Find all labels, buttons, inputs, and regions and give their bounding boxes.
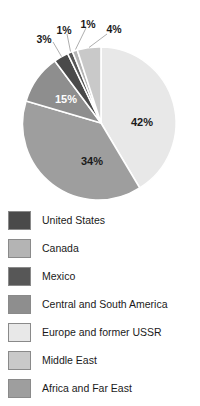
pie-chart-svg: 42% 34% 15% 3% 1% 1% 4% [0, 0, 200, 206]
legend-item-africa-and-far-east[interactable]: Africa and Far East [8, 374, 200, 402]
legend-label-africa-and-far-east: Africa and Far East [42, 383, 132, 394]
pie-value-label-15: 15% [55, 93, 77, 105]
legend-swatch-middle-east [8, 351, 31, 370]
leader-line-1a-percent [67, 34, 71, 52]
leader-line-4-percent [89, 34, 107, 48]
legend-swatch-central-and-south-america [8, 295, 31, 314]
legend-label-central-and-south-america: Central and South America [42, 299, 168, 310]
legend-item-middle-east[interactable]: Middle East [8, 346, 200, 374]
legend-label-mexico: Mexico [42, 271, 75, 282]
pie-value-label-3: 3% [36, 33, 52, 45]
leader-line-3-percent [53, 42, 62, 57]
legend-item-central-and-south-america[interactable]: Central and South America [8, 290, 200, 318]
legend-item-europe-and-former-ussr[interactable]: Europe and former USSR [8, 318, 200, 346]
pie-chart-figure: 42% 34% 15% 3% 1% 1% 4% United States Ca… [0, 0, 200, 406]
legend-label-middle-east: Middle East [42, 355, 97, 366]
pie-value-label-4: 4% [106, 23, 122, 35]
pie-value-label-34: 34% [81, 155, 103, 167]
legend-label-canada: Canada [42, 243, 79, 254]
chart-legend: United States Canada Mexico Central and … [0, 206, 200, 406]
legend-label-united-states: United States [42, 215, 105, 226]
legend-item-canada[interactable]: Canada [8, 234, 200, 262]
legend-item-mexico[interactable]: Mexico [8, 262, 200, 290]
pie-value-label-1a: 1% [56, 24, 72, 36]
legend-swatch-europe-and-former-ussr [8, 323, 31, 342]
legend-item-united-states[interactable]: United States [8, 206, 200, 234]
pie-value-label-1b: 1% [80, 18, 96, 30]
leader-line-1b-percent [76, 28, 87, 50]
pie-chart-plot-area: 42% 34% 15% 3% 1% 1% 4% [0, 0, 200, 206]
pie-value-label-42: 42% [131, 116, 153, 128]
legend-swatch-mexico [8, 267, 31, 286]
legend-swatch-canada [8, 239, 31, 258]
legend-label-europe-and-former-ussr: Europe and former USSR [42, 327, 162, 338]
legend-swatch-africa-and-far-east [8, 379, 31, 398]
legend-swatch-united-states [8, 211, 31, 230]
